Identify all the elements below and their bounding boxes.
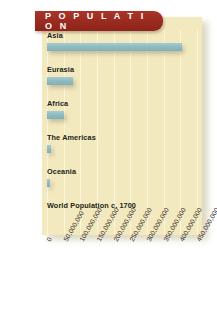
category-label: Africa [47, 99, 68, 109]
bar-fill [47, 179, 50, 187]
bar-eurasia[interactable] [47, 77, 73, 85]
chart-category-row: Oceania [42, 167, 202, 201]
category-label: Asia [47, 31, 63, 41]
chart-category-row: Asia [42, 31, 202, 65]
x-tick-label: 0 [45, 236, 53, 243]
chart-category-row: Africa [42, 99, 202, 133]
bar-oceania[interactable] [47, 179, 50, 187]
category-label: Eurasia [47, 65, 74, 75]
category-label: The Americas [47, 133, 96, 143]
x-axis-tick-labels: 050,000,000100,000,000150,000,000200,000… [0, 235, 217, 316]
bar-fill [47, 43, 182, 51]
category-label: Oceania [47, 167, 76, 177]
population-bar-chart: P O P U L A T I O N AsiaEurasiaAfricaThe… [0, 0, 217, 316]
chart-category-row: Eurasia [42, 65, 202, 99]
bar-the-americas[interactable] [47, 145, 51, 153]
chart-title-banner: P O P U L A T I O N [35, 11, 163, 31]
chart-plot-area: AsiaEurasiaAfricaThe AmericasOceaniaWorl… [42, 31, 202, 235]
chart-category-row: The Americas [42, 133, 202, 167]
bar-fill [47, 111, 64, 119]
page-title: P O P U L A T I O N [45, 11, 157, 31]
bar-africa[interactable] [47, 111, 64, 119]
bar-fill [47, 77, 73, 85]
bar-fill [47, 145, 51, 153]
bar-asia[interactable] [47, 43, 182, 51]
category-label: World Population c. 1700 [47, 201, 136, 211]
